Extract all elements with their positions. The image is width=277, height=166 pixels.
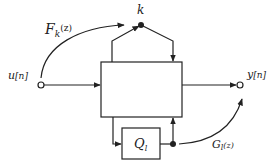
upper-path-right bbox=[141, 25, 173, 61]
f-label: Fk(z) bbox=[44, 21, 72, 39]
output-label: y[n] bbox=[246, 68, 267, 81]
input-terminal bbox=[38, 82, 44, 88]
upper-path-left bbox=[112, 26, 139, 62]
g-label: Gl(z) bbox=[212, 138, 234, 152]
k-label: k bbox=[137, 3, 144, 17]
main-block bbox=[101, 62, 182, 117]
g-curve bbox=[179, 99, 242, 144]
block-diagram: Fk(z) k u[n] y[n] Ql Gl(z) bbox=[0, 0, 277, 166]
lower-path-in bbox=[113, 117, 121, 144]
output-terminal bbox=[237, 82, 243, 88]
q-label: Ql bbox=[134, 136, 148, 153]
input-label: u[n] bbox=[8, 69, 28, 82]
